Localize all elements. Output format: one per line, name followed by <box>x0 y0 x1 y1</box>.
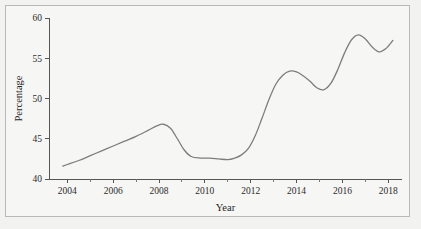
y-tick-label-60: 60 <box>33 13 43 23</box>
data-series-line <box>63 35 393 166</box>
x-tick-label-2014: 2014 <box>287 186 306 196</box>
x-axis-title: Year <box>216 202 236 213</box>
figure-container: 4045505560200420062008201020122014201620… <box>0 0 421 229</box>
y-tick-label-40: 40 <box>33 174 43 184</box>
line-chart: 4045505560200420062008201020122014201620… <box>0 0 421 229</box>
y-axis-title: Percentage <box>13 75 24 121</box>
y-tick-label-50: 50 <box>33 94 43 104</box>
x-tick-label-2008: 2008 <box>150 186 169 196</box>
x-tick-label-2004: 2004 <box>58 186 77 196</box>
x-tick-label-2010: 2010 <box>195 186 214 196</box>
x-tick-label-2018: 2018 <box>379 186 398 196</box>
y-tick-label-45: 45 <box>33 134 43 144</box>
x-tick-label-2012: 2012 <box>241 186 260 196</box>
x-tick-label-2016: 2016 <box>333 186 352 196</box>
x-tick-label-2006: 2006 <box>104 186 123 196</box>
y-tick-label-55: 55 <box>33 54 43 64</box>
